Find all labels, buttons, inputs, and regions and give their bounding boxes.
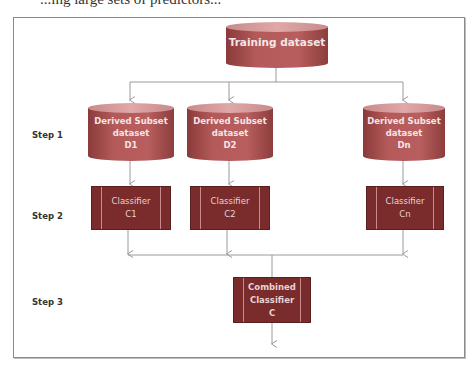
subset-d2-cylinder: Derived Subset dataset D2 — [187, 103, 273, 161]
classifier-c2-line1: Classifier — [191, 195, 269, 208]
subset-d2-line3: D2 — [187, 139, 273, 151]
classifier-cn-box: Classifier Cn — [366, 186, 444, 230]
classifier-c1-line1: Classifier — [92, 195, 170, 208]
subset-d1-line2: dataset — [88, 127, 174, 139]
classifier-cn-line2: Cn — [367, 208, 443, 221]
subset-d1-line3: D1 — [88, 139, 174, 151]
cylinder-top — [187, 103, 273, 113]
combined-line3: C — [234, 307, 310, 320]
training-dataset-label: Training dataset — [226, 36, 328, 48]
classifier-c2-line2: C2 — [191, 208, 269, 221]
subset-dn-line1: Derived Subset — [363, 115, 445, 127]
step-1-label: Step 1 — [32, 130, 63, 140]
classifier-cn-line1: Classifier — [367, 195, 443, 208]
combined-line1: Combined — [234, 281, 310, 294]
subset-d2-line1: Derived Subset — [187, 115, 273, 127]
cylinder-top — [88, 103, 174, 113]
subset-d2-line2: dataset — [187, 127, 273, 139]
subset-dn-line3: Dn — [363, 139, 445, 151]
subset-d1-cylinder: Derived Subset dataset D1 — [88, 103, 174, 161]
subset-dn-cylinder: Derived Subset dataset Dn — [363, 103, 445, 161]
combined-line2: Classifier — [234, 294, 310, 307]
cylinder-top — [226, 22, 328, 32]
combined-classifier-box: Combined Classifier C — [233, 277, 311, 323]
classifier-c1-box: Classifier C1 — [91, 186, 171, 230]
classifier-c1-line2: C1 — [92, 208, 170, 221]
step-2-label: Step 2 — [32, 211, 63, 221]
subset-d1-line1: Derived Subset — [88, 115, 174, 127]
step-3-label: Step 3 — [32, 297, 63, 307]
cylinder-top — [363, 103, 445, 113]
training-dataset-cylinder: Training dataset — [226, 22, 328, 68]
classifier-c2-box: Classifier C2 — [190, 186, 270, 230]
subset-dn-line2: dataset — [363, 127, 445, 139]
